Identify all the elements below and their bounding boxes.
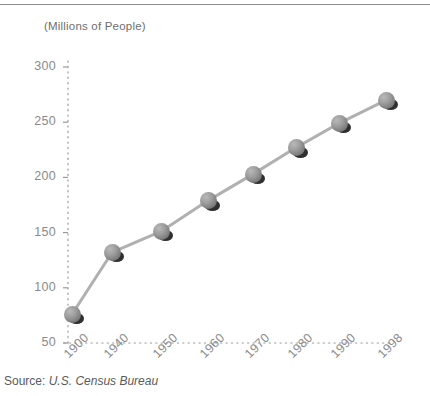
y-tick-label: 100 [22,280,56,294]
source-label: Source: [4,374,45,388]
data-point-shadow [293,147,308,158]
data-point-shadow [69,313,84,324]
data-point-shadow [336,122,351,133]
source-value: U.S. Census Bureau [49,374,158,388]
y-tick-label: 50 [22,335,56,349]
y-tick-label: 250 [22,114,56,128]
chart-figure: (Millions of People) 50100150200250300 1… [0,0,430,396]
data-point-shadow [383,99,398,110]
y-axis [63,61,68,343]
data-point-shadow [205,200,220,211]
data-point-shadow [250,173,265,184]
y-tick-label: 150 [22,225,56,239]
source-note: Source: U.S. Census Bureau [4,374,158,388]
y-tick-label: 200 [22,169,56,183]
y-tick-label: 300 [22,59,56,73]
